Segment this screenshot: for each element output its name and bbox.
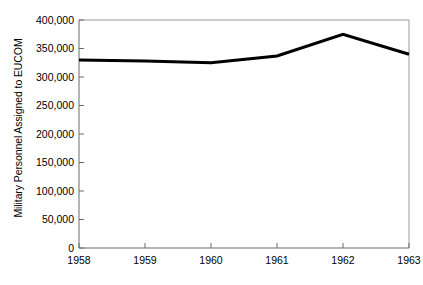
data-series-line: [79, 34, 409, 63]
x-axis-ticks: [79, 243, 409, 248]
axis-frame: [79, 20, 409, 248]
line-chart: Military Personnel Assigned to EUCOM 400…: [0, 0, 423, 285]
y-axis-ticks: [79, 20, 84, 248]
plot-area: [0, 0, 423, 285]
